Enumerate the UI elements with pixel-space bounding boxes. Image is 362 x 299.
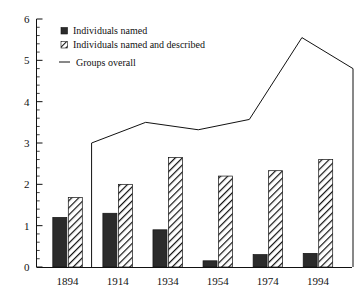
bar-individuals-named	[103, 213, 117, 267]
x-tick-label-1974: 1974	[257, 275, 280, 287]
bar-individuals-named	[53, 217, 67, 267]
legend-item-label-2: Groups overall	[76, 57, 136, 68]
bar-individuals-named-and-described	[118, 184, 132, 267]
solid-square-marker	[61, 28, 68, 35]
y-tick-label: 5	[24, 54, 30, 66]
bar-individuals-named-and-described	[68, 198, 82, 267]
y-tick-label: 1	[24, 220, 30, 232]
x-tick-label-1994: 1994	[307, 275, 330, 287]
x-tick-label-1894: 1894	[57, 275, 80, 287]
bar-individuals-named-and-described	[168, 157, 182, 267]
hatched-square-marker	[61, 42, 68, 49]
legend-item-label-0: Individuals named	[73, 25, 147, 36]
bar-individuals-named	[203, 261, 217, 267]
y-tick-label: 4	[24, 96, 30, 108]
legend-item-label-1: Individuals named and described	[73, 39, 205, 50]
groups-overall-chart: 6543210 189419141934195419741994 Individ…	[0, 0, 362, 299]
y-tick-label: 6	[24, 13, 30, 25]
bar-individuals-named-and-described	[319, 160, 333, 267]
x-tick-label-1954: 1954	[207, 275, 230, 287]
y-tick-label: 0	[24, 261, 30, 273]
bar-individuals-named	[303, 253, 317, 267]
y-tick-label: 2	[24, 178, 30, 190]
bar-individuals-named-and-described	[219, 176, 233, 267]
bar-individuals-named-and-described	[269, 171, 283, 267]
x-tick-label-1934: 1934	[157, 275, 180, 287]
bar-individuals-named	[253, 255, 267, 267]
x-tick-label-1914: 1914	[107, 275, 130, 287]
chart-container: 6543210 189419141934195419741994 Individ…	[0, 0, 362, 299]
y-tick-label: 3	[24, 137, 30, 149]
bar-individuals-named	[153, 230, 167, 267]
